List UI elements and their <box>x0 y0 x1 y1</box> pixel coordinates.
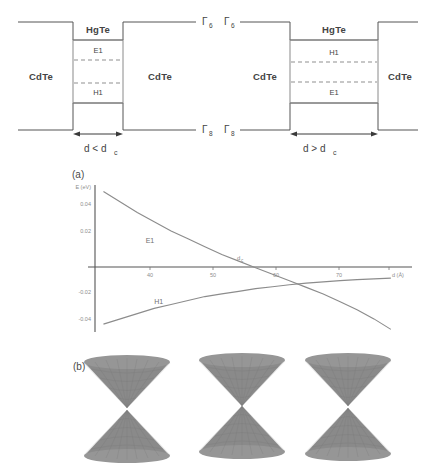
dirac-cone-pair-gapless <box>199 353 285 459</box>
x-tick-label-3: 70 <box>336 272 342 278</box>
well-left: CdTe HgTe CdTe E1 H1 Γ 6 Γ 8 d < d c <box>18 16 213 156</box>
y-tick-label-1: 0.02 <box>80 228 91 234</box>
subband-energy-svg: (a) E (eV) 0.04 0.02 -0.02 -0.04 40 50 6… <box>0 160 427 356</box>
band-diagram-svg: CdTe HgTe CdTe E1 H1 Γ 6 Γ 8 d < d c <box>0 0 427 160</box>
y-tick-label-2: -0.02 <box>78 289 91 295</box>
left-subband-lower-label: H1 <box>93 88 103 97</box>
left-width-label-subscript: c <box>114 149 118 156</box>
left-width-label: d < d <box>84 143 107 154</box>
y-tick-label-0: 0.04 <box>80 201 91 207</box>
dirac-cone-pair-gapped <box>84 355 170 463</box>
curve-h1 <box>103 278 390 324</box>
left-gamma8-subscript: 8 <box>209 130 213 137</box>
dirac-cone-pair-inverted <box>305 353 391 461</box>
right-well-material-label: HgTe <box>322 24 346 35</box>
curve-h1-label: H1 <box>154 298 163 305</box>
left-gamma6-label: Γ <box>202 16 208 27</box>
subband-energy-chart: (a) E (eV) 0.04 0.02 -0.02 -0.04 40 50 6… <box>0 160 427 356</box>
left-valence-edge <box>18 103 196 130</box>
curve-e1 <box>103 192 390 330</box>
right-gamma8-label: Γ <box>224 124 230 135</box>
right-gamma8-subscript: 8 <box>231 130 235 137</box>
dirac-cones-panel: (b) <box>0 352 427 464</box>
right-subband-upper-label: H1 <box>329 48 339 57</box>
left-subband-upper-label: E1 <box>93 46 102 55</box>
figure-root: CdTe HgTe CdTe E1 H1 Γ 6 Γ 8 d < d c <box>0 0 427 464</box>
x-axis-unit-label: d (Å) <box>392 272 404 278</box>
left-gamma6-subscript: 6 <box>209 22 213 29</box>
curve-e1-label: E1 <box>146 237 155 244</box>
y-axis-unit-label: E (eV) <box>75 184 91 190</box>
right-valence-edge <box>240 103 418 130</box>
well-right: CdTe HgTe CdTe H1 E1 Γ 6 Γ 8 d > d c <box>224 16 418 156</box>
right-width-label: d > d <box>303 143 326 154</box>
right-width-arrow <box>290 131 378 136</box>
right-subband-lower-label: E1 <box>329 88 338 97</box>
x-tick-label-1: 50 <box>210 272 216 278</box>
right-barrier-right-label: CdTe <box>388 71 412 82</box>
right-gamma6-label: Γ <box>224 16 230 27</box>
left-width-arrow <box>73 131 123 136</box>
right-barrier-left-label: CdTe <box>253 71 277 82</box>
dirac-cones-svg: (b) <box>0 352 427 464</box>
y-tick-label-3: -0.04 <box>78 316 91 322</box>
panel-a-label: (a) <box>72 169 84 180</box>
panel-b-label: (b) <box>73 361 85 372</box>
left-gamma8-label: Γ <box>202 124 208 135</box>
left-well-material-label: HgTe <box>86 24 110 35</box>
left-barrier-right-label: CdTe <box>148 71 172 82</box>
band-diagram-panel: CdTe HgTe CdTe E1 H1 Γ 6 Γ 8 d < d c <box>0 0 427 160</box>
x-tick-label-0: 40 <box>147 272 153 278</box>
left-barrier-label: CdTe <box>29 71 53 82</box>
right-gamma6-subscript: 6 <box>231 22 235 29</box>
right-width-label-subscript: c <box>333 149 337 156</box>
